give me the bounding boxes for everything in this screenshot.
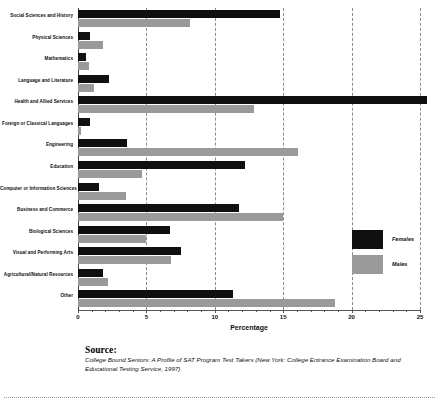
bar-females — [78, 75, 109, 83]
bar-males — [78, 84, 94, 92]
x-tick-23 — [393, 310, 394, 312]
x-tick-15 — [283, 310, 284, 313]
bar-males — [78, 192, 126, 200]
x-tick-22 — [379, 310, 380, 312]
x-tick-label-10: 10 — [211, 314, 218, 320]
legend-swatch — [352, 230, 383, 249]
x-tick-11 — [228, 310, 229, 312]
x-tick-label-5: 5 — [145, 314, 148, 320]
source-text: College Bound Seniors: A Profile of SAT … — [85, 356, 430, 374]
bar-females — [78, 247, 181, 255]
bar-males — [78, 41, 103, 49]
category-label: Language and Literature — [0, 78, 78, 83]
bar-row — [78, 52, 420, 75]
bar-males — [78, 105, 254, 113]
category-label: Engineering — [0, 142, 78, 147]
x-tick-0 — [78, 310, 79, 313]
bar-row — [78, 9, 420, 32]
bar-females — [78, 96, 427, 104]
x-tick-7 — [174, 310, 175, 312]
x-tick-2 — [105, 310, 106, 312]
bar-females — [78, 269, 103, 277]
chart-page: Social Sciences and HistoryPhysical Scie… — [0, 0, 439, 402]
x-tick-9 — [201, 310, 202, 312]
bar-males — [78, 62, 89, 70]
bar-females — [78, 139, 127, 147]
bar-row — [78, 160, 420, 183]
category-label: Business and Commerce — [0, 207, 78, 212]
category-axis-labels: Social Sciences and HistoryPhysical Scie… — [0, 8, 78, 310]
x-tick-17 — [311, 310, 312, 312]
bar-females — [78, 118, 90, 126]
bar-females — [78, 183, 99, 191]
x-tick-20 — [352, 310, 353, 313]
x-tick-label-15: 15 — [280, 314, 287, 320]
x-tick-5 — [146, 310, 147, 313]
source-block: Source: College Bound Seniors: A Profile… — [85, 345, 430, 374]
category-label: Physical Sciences — [0, 35, 78, 40]
x-tick-19 — [338, 310, 339, 312]
bar-females — [78, 290, 233, 298]
x-tick-1 — [92, 310, 93, 312]
category-label: Visual and Performing Arts — [0, 250, 78, 255]
x-axis-title: Percentage — [78, 324, 420, 331]
bar-females — [78, 204, 239, 212]
bar-males — [78, 278, 108, 286]
category-label: Foreign or Classical Languages — [0, 121, 78, 126]
bar-males — [78, 235, 146, 243]
bar-females — [78, 226, 170, 234]
x-tick-8 — [187, 310, 188, 312]
category-label: Computer or Information Sciences — [0, 186, 78, 191]
bar-females — [78, 10, 280, 18]
x-tick-6 — [160, 310, 161, 312]
bar-males — [78, 256, 171, 264]
category-label: Other — [0, 293, 78, 298]
bar-males — [78, 213, 283, 221]
bar-males — [78, 170, 142, 178]
x-tick-label-20: 20 — [348, 314, 355, 320]
bar-females — [78, 53, 86, 61]
bar-row — [78, 31, 420, 54]
bar-females — [78, 161, 245, 169]
x-tick-12 — [242, 310, 243, 312]
x-tick-24 — [406, 310, 407, 312]
legend-label: Males — [392, 261, 407, 267]
bar-males — [78, 148, 298, 156]
bar-row — [78, 74, 420, 97]
legend-item: Males — [352, 253, 438, 278]
x-tick-16 — [297, 310, 298, 312]
bar-males — [78, 127, 81, 135]
x-tick-10 — [215, 310, 216, 313]
x-tick-14 — [270, 310, 271, 312]
x-tick-18 — [324, 310, 325, 312]
legend-label: Females — [392, 236, 414, 242]
legend-item: Females — [352, 228, 438, 253]
bar-row — [78, 203, 420, 226]
category-label: Health and Allied Services — [0, 99, 78, 104]
x-tick-13 — [256, 310, 257, 312]
x-axis-line — [78, 310, 421, 311]
bar-males — [78, 299, 335, 307]
category-label: Mathematics — [0, 56, 78, 61]
bar-males — [78, 19, 190, 27]
category-label: Education — [0, 164, 78, 169]
x-tick-3 — [119, 310, 120, 312]
category-label: Biological Sciences — [0, 229, 78, 234]
chart-legend: FemalesMales — [352, 228, 438, 278]
bar-row — [78, 182, 420, 205]
bar-row — [78, 95, 420, 118]
bar-row — [78, 138, 420, 161]
bottom-divider — [4, 397, 435, 398]
bar-females — [78, 32, 90, 40]
category-label: Agricultural/Natural Resources — [0, 272, 78, 277]
chart-plot-wrapper: Social Sciences and HistoryPhysical Scie… — [0, 0, 439, 330]
x-tick-21 — [365, 310, 366, 312]
x-tick-4 — [133, 310, 134, 312]
x-tick-label-0: 0 — [76, 314, 79, 320]
x-tick-25 — [420, 310, 421, 313]
legend-swatch — [352, 255, 383, 274]
category-label: Social Sciences and History — [0, 13, 78, 18]
x-tick-label-25: 25 — [417, 314, 424, 320]
source-heading: Source: — [85, 345, 430, 355]
bar-row — [78, 117, 420, 140]
